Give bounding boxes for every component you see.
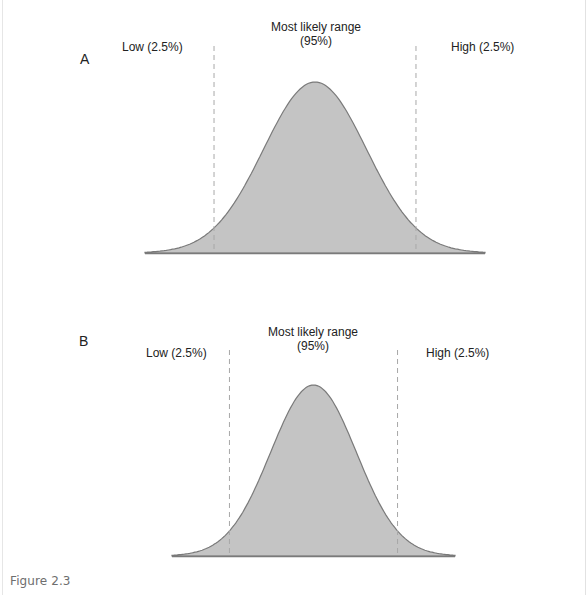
panel-b-high-label: High (2.5%) — [426, 346, 489, 360]
panel-b-title-pct: (95%) — [297, 339, 329, 353]
panel-a: A Most likely range (95%) Low (2.5%) Hig… — [80, 20, 514, 254]
panel-b-label: B — [79, 333, 88, 349]
panel-a-distribution-area — [145, 82, 485, 253]
panel-a-label: A — [80, 51, 90, 67]
panel-a-title-pct: (95%) — [300, 34, 332, 48]
panel-b-low-label: Low (2.5%) — [146, 346, 207, 360]
panel-b: B Most likely range (95%) Low (2.5%) Hig… — [79, 325, 489, 557]
panel-b-distribution-area — [172, 385, 455, 556]
panel-a-high-label: High (2.5%) — [451, 40, 514, 54]
panel-b-title: Most likely range — [268, 325, 358, 339]
figure-caption: Figure 2.3 — [10, 574, 71, 588]
panel-a-title: Most likely range — [271, 20, 361, 34]
figure-canvas: A Most likely range (95%) Low (2.5%) Hig… — [0, 0, 588, 595]
panel-a-low-label: Low (2.5%) — [122, 40, 183, 54]
